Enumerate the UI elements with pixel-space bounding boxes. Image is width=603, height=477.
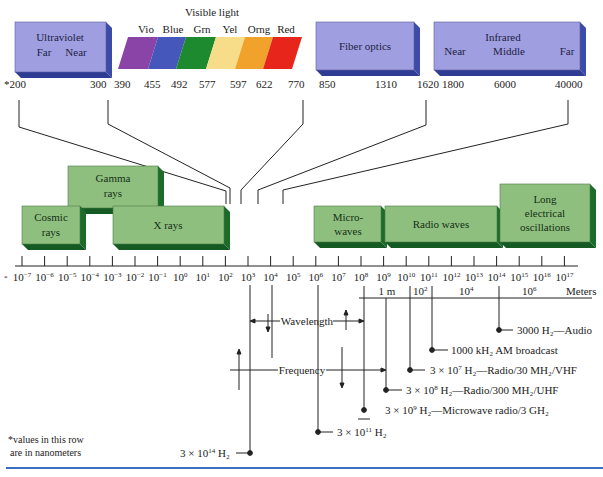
wavelength-axis: 10−710−610−510−410−310−210−1100101102103… — [4, 256, 578, 283]
radio-label: Radio waves — [413, 218, 470, 230]
axis-tick-label: 10−1 — [148, 271, 167, 283]
axis-tick-label: 10−6 — [35, 271, 54, 283]
uv-title: Ultraviolet — [36, 31, 84, 43]
axis-tick-label: 101 — [196, 271, 211, 283]
band-red: Red — [277, 23, 295, 35]
cosmic-rays-box: Cosmic rays — [22, 206, 86, 250]
fiber-optics-box: Fiber optics — [316, 22, 420, 76]
fiber-title: Fiber optics — [339, 40, 391, 52]
meters-1e2: 102 — [413, 285, 428, 297]
axis-tick-label: 105 — [286, 271, 301, 283]
axis-tick-label: 1015 — [510, 271, 529, 283]
axis-tick-label: 107 — [331, 271, 346, 283]
axis-tick-label: 1011 — [420, 271, 438, 283]
frequency-label: Frequency — [279, 364, 326, 376]
meters-row: 1 m 102 104 106 Meters — [359, 285, 597, 298]
freq-uhf: 3 × 108 H₂—Radio/300 MH₂/UHF — [406, 384, 558, 396]
ir-tick-40000: 40000 — [555, 78, 583, 90]
axis-tick-label: 1016 — [533, 271, 552, 283]
axis-tick-label: 109 — [376, 271, 391, 283]
uv-near: Near — [65, 46, 87, 58]
freq-am: 1000 kH₂ AM broadcast — [451, 344, 558, 356]
wavelength-label: Wavelength — [281, 315, 334, 327]
axis-tick-label: 1014 — [488, 271, 507, 283]
band-grn: Grn — [193, 23, 211, 35]
ultraviolet-box: Ultraviolet Far Near — [15, 22, 112, 78]
footnote-line2: are in nanometers — [10, 447, 81, 458]
uv-tick-300: 300 — [90, 78, 107, 90]
freq-3e11: 3 × 1011 H₂ — [337, 426, 387, 438]
vis-tick-577: 577 — [199, 78, 216, 90]
meters-1m: 1 m — [379, 285, 396, 297]
radio-waves-box: Radio waves — [385, 206, 503, 248]
long-line2: electrical — [525, 207, 565, 219]
axis-tick-label: 106 — [309, 271, 324, 283]
freq-vhf: 3 × 107 H₂—Radio/30 MH₂/VHF — [430, 364, 577, 376]
vis-tick-597: 597 — [230, 78, 247, 90]
fiber-tick-1310: 1310 — [375, 78, 398, 90]
gamma-line1: Gamma — [96, 172, 131, 184]
fiber-tick-1620: 1620 — [417, 78, 440, 90]
long-line3: oscillations — [520, 221, 570, 233]
ir-tick-6000: 6000 — [494, 78, 517, 90]
freq-audio: 3000 H₂—Audio — [517, 324, 593, 336]
meters-unit: Meters — [566, 285, 597, 297]
vis-tick-622: 622 — [256, 78, 273, 90]
footnote-line1: *values in this row — [8, 434, 85, 445]
vis-tick-390: 390 — [114, 78, 131, 90]
gamma-line2: rays — [104, 187, 122, 199]
axis-tick-label: 104 — [263, 271, 278, 283]
microwaves-box: Micro- waves — [314, 206, 387, 248]
axis-tick-label: 10−3 — [103, 271, 122, 283]
axis-tick-label: 10−5 — [58, 271, 77, 283]
spectrum-svg: Ultraviolet Far Near *200 300 Visible li… — [0, 0, 603, 477]
ir-near: Near — [444, 45, 466, 57]
uv-tick-200: *200 — [4, 78, 27, 90]
axis-tick-label: 108 — [354, 271, 369, 283]
xrays-label: X rays — [153, 219, 182, 231]
uv-far: Far — [37, 46, 52, 58]
band-orng: Orng — [248, 23, 271, 35]
micro-line2: waves — [334, 225, 362, 237]
micro-line1: Micro- — [333, 211, 364, 223]
axis-tick-label: 103 — [241, 271, 256, 283]
visible-title: Visible light — [185, 6, 239, 18]
long-oscillations-box: Long electrical oscillations — [500, 184, 596, 248]
axis-tick-label: 10−2 — [126, 271, 145, 283]
band-yel: Yel — [223, 23, 238, 35]
infrared-title: Infrared — [485, 31, 521, 43]
ir-far: Far — [560, 45, 575, 57]
axis-tick-label: 102 — [218, 271, 233, 283]
x-rays-box: X rays — [113, 206, 230, 250]
axis-tick-label: 10−4 — [81, 271, 100, 283]
ir-middle: Middle — [493, 45, 525, 57]
vis-tick-455: 455 — [144, 78, 161, 90]
long-line1: Long — [533, 193, 557, 205]
visible-light-bar: Visible light Vio Blue Grn Yel Orng Red — [118, 6, 302, 69]
cosmic-line2: rays — [42, 226, 60, 238]
vis-tick-492: 492 — [171, 78, 188, 90]
band-vio: Vio — [138, 23, 154, 35]
cosmic-line1: Cosmic — [34, 211, 68, 223]
vis-tick-770: 770 — [288, 78, 305, 90]
axis-tick-label: 1013 — [465, 271, 484, 283]
axis-tick-label: 1010 — [397, 271, 416, 283]
axis-asterisk: * — [4, 274, 8, 282]
axis-tick-label: 100 — [173, 271, 188, 283]
fiber-tick-850: 850 — [319, 78, 336, 90]
axis-tick-label: 10−7 — [13, 271, 32, 283]
axis-tick-label: 1012 — [442, 271, 461, 283]
freq-3e14: 3 × 1014 H₂ — [180, 447, 230, 459]
axis-tick-label: 1017 — [555, 271, 574, 283]
meters-1e4: 104 — [459, 285, 474, 297]
infrared-box: Infrared Near Middle Far — [434, 22, 586, 76]
freq-microwave: 3 × 109 H₂—Microwave radio/3 GH₂ — [385, 404, 549, 416]
band-blue: Blue — [163, 23, 184, 35]
ir-tick-1800: 1800 — [442, 78, 465, 90]
electromagnetic-spectrum-diagram: Ultraviolet Far Near *200 300 Visible li… — [0, 0, 603, 477]
meters-1e6: 106 — [522, 285, 537, 297]
